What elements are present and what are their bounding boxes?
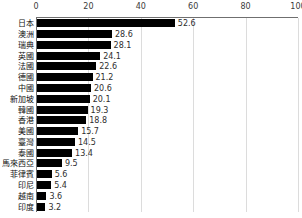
x-tick-label-80: 80 — [241, 2, 251, 12]
value-label: 5.6 — [52, 170, 68, 179]
bar-row: 日本52.6 — [0, 18, 302, 29]
bar — [37, 127, 78, 135]
category-label: 印尼 — [18, 181, 34, 190]
category-label: 美國 — [18, 127, 34, 136]
category-label: 臺灣 — [18, 137, 34, 146]
bar — [37, 159, 62, 167]
x-tick-label-20: 20 — [83, 2, 93, 12]
value-label: 20.1 — [90, 94, 111, 103]
category-label: 菲律賓 — [10, 170, 34, 179]
bar — [37, 170, 52, 178]
bar — [37, 52, 100, 60]
bar-row: 臺灣14.5 — [0, 137, 302, 148]
bar-row: 印尼5.4 — [0, 180, 302, 191]
bar-row: 美國15.7 — [0, 126, 302, 137]
bar — [37, 95, 90, 103]
category-label: 法國 — [18, 62, 34, 71]
value-label: 19.3 — [88, 105, 109, 114]
bar-row: 中國20.6 — [0, 83, 302, 94]
value-label: 20.6 — [91, 84, 112, 93]
bar-row: 英國24.1 — [0, 50, 302, 61]
bar-row: 香港18.8 — [0, 115, 302, 126]
bar — [37, 149, 72, 157]
bar — [37, 192, 46, 200]
bar-row: 德國21.2 — [0, 72, 302, 83]
bar-row: 澳洲28.6 — [0, 29, 302, 40]
bar — [37, 203, 45, 211]
bar — [37, 30, 112, 38]
value-label: 28.1 — [111, 40, 132, 49]
value-label: 14.5 — [75, 137, 96, 146]
category-label: 德國 — [18, 73, 34, 82]
bar-row: 韓國19.3 — [0, 104, 302, 115]
value-label: 3.6 — [46, 191, 62, 200]
bar-row: 印度3.2 — [0, 201, 302, 212]
bar — [37, 138, 75, 146]
category-label: 泰國 — [18, 148, 34, 157]
bar — [37, 41, 111, 49]
category-label: 中國 — [18, 84, 34, 93]
x-tick-label-0: 0 — [33, 2, 38, 12]
x-tick-label-100: 100 — [290, 2, 302, 12]
category-label: 香港 — [18, 116, 34, 125]
x-tick-label-40: 40 — [136, 2, 146, 12]
category-label: 越南 — [18, 191, 34, 200]
bar-row: 瑞典28.1 — [0, 40, 302, 51]
bar-chart: 020406080100 日本52.6澳洲28.6瑞典28.1英國24.1法國2… — [0, 0, 302, 218]
category-label: 馬來西亞 — [2, 159, 34, 168]
value-label: 24.1 — [100, 51, 121, 60]
bar — [37, 62, 96, 70]
bar-row: 法國22.6 — [0, 61, 302, 72]
bar-row: 新加坡20.1 — [0, 93, 302, 104]
bar — [37, 181, 51, 189]
value-label: 9.5 — [62, 159, 78, 168]
bar-row: 泰國13.4 — [0, 147, 302, 158]
category-label: 韓國 — [18, 105, 34, 114]
bar-row: 菲律賓5.6 — [0, 169, 302, 180]
value-label: 5.4 — [51, 181, 67, 190]
value-label: 3.2 — [45, 202, 61, 211]
bar — [37, 73, 93, 81]
bar — [37, 19, 175, 27]
value-label: 22.6 — [96, 62, 117, 71]
x-tick-label-60: 60 — [188, 2, 198, 12]
bar — [37, 106, 88, 114]
category-label: 瑞典 — [18, 40, 34, 49]
value-label: 52.6 — [175, 19, 196, 28]
value-label: 13.4 — [72, 148, 93, 157]
value-label: 15.7 — [78, 127, 99, 136]
value-label: 21.2 — [93, 73, 114, 82]
bar — [37, 84, 91, 92]
category-label: 印度 — [18, 202, 34, 211]
bar-rows: 日本52.6澳洲28.6瑞典28.1英國24.1法國22.6德國21.2中國20… — [0, 18, 302, 212]
category-label: 英國 — [18, 51, 34, 60]
category-label: 新加坡 — [10, 94, 34, 103]
value-label: 18.8 — [86, 116, 107, 125]
bar-row: 越南3.6 — [0, 190, 302, 201]
bar — [37, 116, 86, 124]
value-label: 28.6 — [112, 30, 133, 39]
category-label: 澳洲 — [18, 30, 34, 39]
category-label: 日本 — [18, 19, 34, 28]
bar-row: 馬來西亞9.5 — [0, 158, 302, 169]
